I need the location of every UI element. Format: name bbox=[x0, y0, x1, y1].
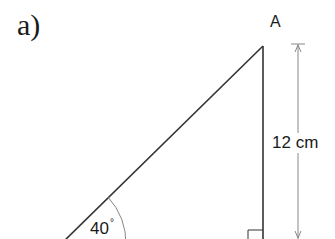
right-angle-marker bbox=[248, 230, 263, 239]
degree-symbol: ° bbox=[110, 217, 114, 228]
vertex-a-label: A bbox=[270, 13, 281, 31]
triangle-diagram: a) A 12 cm 40° bbox=[0, 0, 335, 239]
side-length-label: 12 cm bbox=[271, 133, 319, 153]
part-label: a) bbox=[17, 8, 40, 42]
angle-value: 40 bbox=[90, 219, 109, 238]
hypotenuse-line bbox=[60, 46, 263, 239]
angle-label: 40° bbox=[90, 217, 114, 239]
triangle-drawing bbox=[0, 0, 335, 239]
